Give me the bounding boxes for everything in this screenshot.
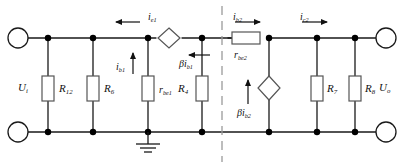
label-rbe2: rbe2 bbox=[234, 50, 247, 61]
label-ib1: ib1 bbox=[116, 62, 125, 73]
terminal-output-bottom bbox=[376, 122, 396, 142]
label-ib2: ib2 bbox=[233, 12, 242, 23]
terminal-output-top bbox=[376, 28, 396, 48]
source-beta-ib1 bbox=[158, 28, 180, 48]
label-output-voltage: Uo bbox=[379, 82, 390, 95]
source-beta-ib2 bbox=[258, 76, 280, 100]
terminal-input-bottom bbox=[8, 122, 28, 142]
label-R12: R12 bbox=[59, 83, 73, 96]
resistor-R12 bbox=[42, 76, 54, 101]
dependent-sources bbox=[158, 28, 280, 100]
resistor-R8 bbox=[349, 76, 361, 101]
resistor-R6 bbox=[87, 76, 99, 101]
ground-symbol bbox=[136, 132, 160, 152]
resistor-rbe1 bbox=[142, 76, 154, 101]
label-R4: R4 bbox=[178, 83, 188, 96]
resistor-rbe2 bbox=[232, 32, 260, 44]
label-beta-ib2: βib2 bbox=[237, 108, 251, 119]
label-R8: R8 bbox=[365, 83, 375, 96]
label-beta-ib1: βib1 bbox=[179, 59, 193, 70]
terminal-input-top bbox=[8, 28, 28, 48]
label-ic2: ic2 bbox=[300, 12, 309, 23]
label-rbe1: rbe1 bbox=[159, 85, 172, 96]
label-R7: R7 bbox=[327, 83, 337, 96]
label-input-voltage: Ui bbox=[18, 82, 28, 95]
resistor-R4 bbox=[196, 76, 208, 101]
resistor-R7 bbox=[311, 76, 323, 101]
label-R6: R6 bbox=[104, 83, 114, 96]
circuit-diagram: Ui R12 R6 rbe1 R4 rbe2 R7 R8 Uo ie1 ib1 … bbox=[0, 0, 404, 168]
label-ie1: ie1 bbox=[148, 12, 157, 23]
